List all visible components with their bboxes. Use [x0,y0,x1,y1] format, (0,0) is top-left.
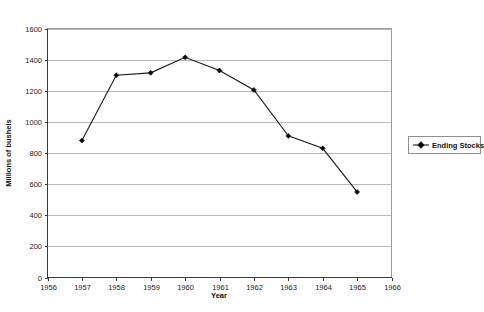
legend-label-ending-stocks: Ending Stocks [432,141,484,150]
series-line-path [82,57,357,192]
y-tick-labels: 02004006008001000120014001600 [25,25,42,283]
x-axis-title: Year [211,291,227,300]
x-tick-label: 1959 [143,283,160,292]
x-tick-label: 1965 [349,283,366,292]
x-tick-label: 1957 [74,283,91,292]
x-tick-label: 1956 [40,283,57,292]
data-point-marker [217,68,222,73]
chart-container: 02004006008001000120014001600 1956195719… [0,0,484,312]
x-tick-label: 1963 [280,283,297,292]
x-tick-label: 1966 [384,283,401,292]
x-tick-label: 1964 [315,283,332,292]
data-point-marker [148,70,153,75]
series-markers [79,55,359,195]
y-tick-label: 1400 [25,56,42,65]
series-ending-stocks [79,55,359,195]
gridlines [48,30,392,247]
data-point-marker [114,73,119,78]
y-tick-label: 1600 [25,25,42,34]
y-axis-title: Millions of bushels [4,119,13,187]
y-tick-label: 200 [29,242,42,251]
legend[interactable]: Ending Stocks [409,137,484,154]
y-tick-label: 1000 [25,118,42,127]
data-point-marker [183,55,188,60]
data-point-marker [79,138,84,143]
y-tick-label: 1200 [25,87,42,96]
y-tick-label: 600 [29,180,42,189]
line-chart: 02004006008001000120014001600 1956195719… [0,0,484,312]
y-tick-label: 800 [29,149,42,158]
x-tick-label: 1958 [108,283,125,292]
y-tick-label: 400 [29,211,42,220]
x-tick-label: 1962 [246,283,263,292]
x-tick-label: 1960 [177,283,194,292]
